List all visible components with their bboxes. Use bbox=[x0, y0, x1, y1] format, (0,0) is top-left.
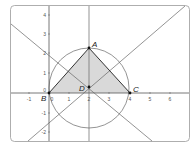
x-tick-label: 0 bbox=[51, 96, 54, 102]
x-tick-label: 2 bbox=[88, 96, 91, 102]
point-c-marker bbox=[129, 92, 132, 95]
x-tick-label: 1 bbox=[68, 96, 71, 102]
y-tick-label: -1 bbox=[42, 110, 47, 116]
point-b-marker bbox=[48, 92, 51, 95]
point-a-marker bbox=[88, 47, 91, 50]
y-tick-label: 2 bbox=[43, 50, 46, 56]
x-tick-label: 6 bbox=[169, 96, 172, 102]
point-a-label: A bbox=[91, 40, 97, 49]
x-tick-label: 4 bbox=[129, 96, 132, 102]
geometry-diagram: -1 0 1 2 3 4 5 6 4 3 2 1 0 -1 -2 A B C D bbox=[0, 0, 195, 147]
point-b-label: B bbox=[41, 94, 47, 103]
y-tick-label: 4 bbox=[43, 12, 46, 18]
y-tick-label: 3 bbox=[43, 31, 46, 37]
x-tick-label: 5 bbox=[149, 96, 152, 102]
y-tick-label: 0 bbox=[43, 87, 46, 93]
y-tick-label: -2 bbox=[42, 129, 47, 135]
y-tick-label: 1 bbox=[43, 70, 46, 76]
point-c-label: C bbox=[133, 85, 139, 94]
x-tick-label: 3 bbox=[108, 96, 111, 102]
point-d-label: D bbox=[79, 84, 85, 93]
x-tick-label: -1 bbox=[27, 96, 32, 102]
point-d-marker bbox=[88, 86, 91, 89]
